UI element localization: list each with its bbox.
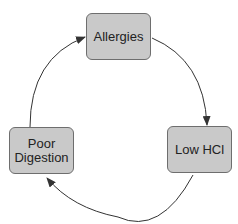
edge-low-hcl-to-poor-digestion [47, 175, 193, 222]
edge-allergies-to-low-hcl [152, 38, 207, 125]
node-low-hcl: Low HCl [167, 126, 232, 173]
node-allergies: Allergies [86, 13, 151, 60]
edge-poor-digestion-to-allergies [30, 37, 85, 127]
node-poor-digestion: Poor Digestion [9, 127, 74, 174]
